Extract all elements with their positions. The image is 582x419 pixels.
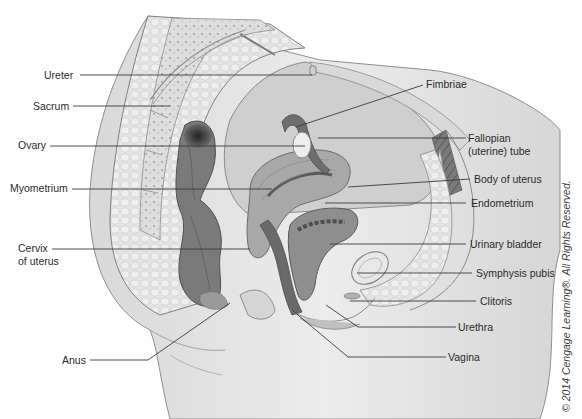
copyright-notice: © 2014 Cengage Learning®. All Rights Res… <box>560 180 572 412</box>
label-cervix: Cervixof uterus <box>18 242 59 268</box>
label-ovary: Ovary <box>18 139 46 152</box>
leader-line-vagina <box>292 310 446 357</box>
label-body-of-uterus: Body of uterus <box>474 173 542 186</box>
label-myometrium: Myometrium <box>10 182 68 195</box>
label-fimbriae: Fimbriae <box>426 78 467 91</box>
anatomy-figure: UreterSacrumOvaryMyometriumCervixof uter… <box>0 0 582 419</box>
label-fallopian: Fallopian(uterine) tube <box>468 132 530 158</box>
label-endometrium: Endometrium <box>471 197 533 210</box>
label-urinary-bladder: Urinary bladder <box>470 238 542 251</box>
label-vagina: Vagina <box>448 351 480 364</box>
label-symphysis-pubis: Symphysis pubis <box>476 267 555 280</box>
label-clitoris: Clitoris <box>480 295 512 308</box>
label-anus: Anus <box>62 354 86 367</box>
leader-line-body-of-uterus <box>348 179 470 187</box>
leader-line-fimbriae <box>296 85 423 127</box>
label-urethra: Urethra <box>458 321 493 334</box>
leader-line-anus <box>90 303 230 360</box>
label-ureter: Ureter <box>44 69 73 82</box>
leader-line-urethra <box>326 305 456 327</box>
label-sacrum: Sacrum <box>33 100 69 113</box>
